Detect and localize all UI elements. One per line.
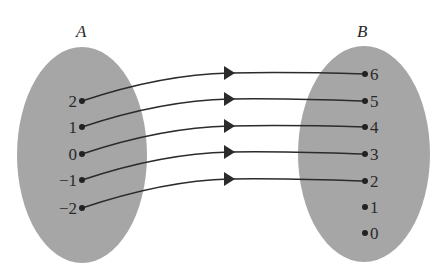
point-dot [362,204,368,210]
element-label: 2 [69,92,78,111]
arrowhead-icon [224,145,235,159]
point-dot [362,178,368,184]
point-dot [79,205,85,211]
point-dot [79,151,85,157]
element-label: −2 [59,199,77,218]
element-label: 1 [69,118,78,137]
point-dot [362,98,368,104]
point-dot [362,71,368,77]
point-dot [79,177,85,183]
element-label: 0 [69,145,78,164]
point-dot [362,151,368,157]
element-label: 3 [370,145,379,164]
function-mapping-diagram: A B 2 1 0 −1 −2 6 5 [0,0,444,267]
arrowhead-icon [224,119,235,133]
arrowhead-icon [224,66,235,80]
arrowheads [224,66,235,186]
set-a-label: A [75,22,87,41]
point-dot [362,230,368,236]
point-dot [79,98,85,104]
set-a: A [17,22,147,263]
element-label: 6 [370,65,379,84]
arrowhead-icon [224,92,235,106]
element-label: 5 [370,92,379,111]
point-dot [362,124,368,130]
element-label: 0 [370,224,379,243]
element-label: 2 [370,172,379,191]
set-b-label: B [357,22,368,41]
set-b: B [298,22,430,262]
point-dot [79,124,85,130]
arrowhead-icon [224,172,235,186]
element-label: 1 [370,198,379,217]
element-label: 4 [370,118,379,137]
element-label: −1 [59,171,77,190]
